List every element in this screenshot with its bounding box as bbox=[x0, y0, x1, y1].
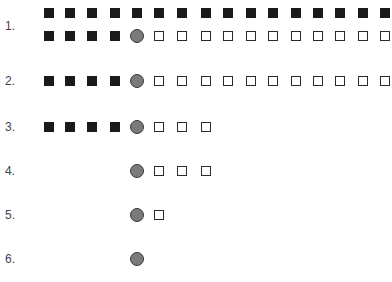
filled-square-icon bbox=[313, 8, 323, 18]
open-square-icon bbox=[223, 31, 233, 41]
open-square-icon bbox=[291, 76, 301, 86]
open-square-icon bbox=[291, 31, 301, 41]
open-square-icon bbox=[201, 122, 211, 132]
filled-square-icon bbox=[87, 122, 97, 132]
open-square-icon bbox=[313, 76, 323, 86]
open-square-icon bbox=[313, 31, 323, 41]
symbol-row bbox=[0, 120, 392, 134]
open-square-icon bbox=[335, 76, 345, 86]
open-square-icon bbox=[201, 31, 211, 41]
symbol-row bbox=[0, 29, 392, 43]
filled-square-icon bbox=[154, 8, 164, 18]
open-square-icon bbox=[201, 166, 211, 176]
gray-circle-icon bbox=[130, 252, 144, 266]
open-square-icon bbox=[223, 76, 233, 86]
symbol-row bbox=[0, 6, 392, 20]
open-square-icon bbox=[380, 31, 390, 41]
filled-square-icon bbox=[44, 122, 54, 132]
open-square-icon bbox=[358, 31, 368, 41]
filled-square-icon bbox=[110, 76, 120, 86]
open-square-icon bbox=[154, 76, 164, 86]
open-square-icon bbox=[268, 76, 278, 86]
filled-square-icon bbox=[87, 76, 97, 86]
filled-square-icon bbox=[65, 76, 75, 86]
gray-circle-icon bbox=[130, 120, 144, 134]
gray-circle-icon bbox=[130, 208, 144, 222]
filled-square-icon bbox=[65, 31, 75, 41]
open-square-icon bbox=[177, 122, 187, 132]
filled-square-icon bbox=[223, 8, 233, 18]
open-square-icon bbox=[154, 166, 164, 176]
filled-square-icon bbox=[87, 31, 97, 41]
filled-square-icon bbox=[246, 8, 256, 18]
open-square-icon bbox=[154, 122, 164, 132]
filled-square-icon bbox=[65, 122, 75, 132]
open-square-icon bbox=[358, 76, 368, 86]
symbol-row bbox=[0, 252, 392, 266]
gray-circle-icon bbox=[130, 29, 144, 43]
filled-square-icon bbox=[291, 8, 301, 18]
open-square-icon bbox=[246, 76, 256, 86]
filled-square-icon bbox=[380, 8, 390, 18]
filled-square-icon bbox=[44, 31, 54, 41]
filled-square-icon bbox=[268, 8, 278, 18]
open-square-icon bbox=[177, 76, 187, 86]
open-square-icon bbox=[201, 76, 211, 86]
open-square-icon bbox=[335, 31, 345, 41]
filled-square-icon bbox=[110, 122, 120, 132]
open-square-icon bbox=[246, 31, 256, 41]
filled-square-icon bbox=[177, 8, 187, 18]
symbol-row bbox=[0, 74, 392, 88]
open-square-icon bbox=[268, 31, 278, 41]
open-square-icon bbox=[177, 166, 187, 176]
filled-square-icon bbox=[110, 31, 120, 41]
filled-square-icon bbox=[65, 8, 75, 18]
filled-square-icon bbox=[132, 8, 142, 18]
filled-square-icon bbox=[44, 76, 54, 86]
filled-square-icon bbox=[44, 8, 54, 18]
open-square-icon bbox=[177, 31, 187, 41]
filled-square-icon bbox=[335, 8, 345, 18]
filled-square-icon bbox=[87, 8, 97, 18]
filled-square-icon bbox=[110, 8, 120, 18]
filled-square-icon bbox=[358, 8, 368, 18]
gray-circle-icon bbox=[130, 164, 144, 178]
open-square-icon bbox=[380, 76, 390, 86]
open-square-icon bbox=[154, 210, 164, 220]
symbol-row bbox=[0, 164, 392, 178]
gray-circle-icon bbox=[130, 74, 144, 88]
symbol-row bbox=[0, 208, 392, 222]
open-square-icon bbox=[154, 31, 164, 41]
filled-square-icon bbox=[201, 8, 211, 18]
